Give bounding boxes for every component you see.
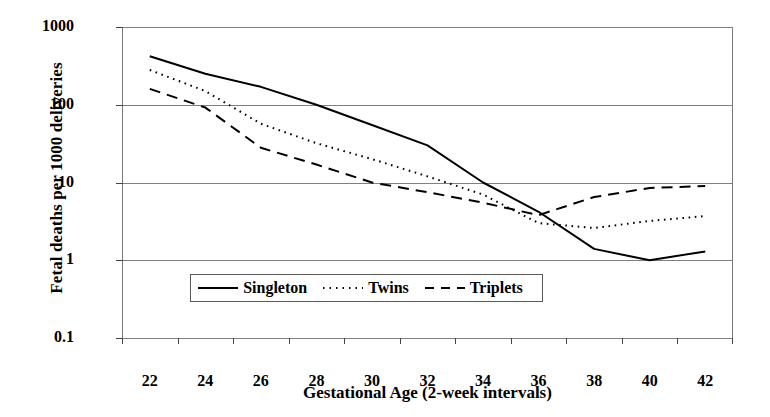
x-tick-label-26: 26: [241, 372, 281, 390]
x-tick-label-30: 30: [352, 372, 392, 390]
y-tick-label-1000: 1000: [0, 18, 74, 34]
series-line-twins: [150, 70, 705, 228]
x-tick-6: [455, 338, 456, 344]
y-tick-label-1: 1: [0, 251, 74, 267]
x-tick-10: [677, 338, 678, 344]
x-tick-label-40: 40: [630, 372, 670, 390]
x-tick-label-34: 34: [463, 372, 503, 390]
x-tick-4: [344, 338, 345, 344]
x-tick-11: [732, 338, 733, 344]
y-tick-label-100: 100: [0, 96, 74, 112]
x-tick-3: [289, 338, 290, 344]
series-line-singleton: [150, 56, 705, 260]
x-tick-label-42: 42: [685, 372, 725, 390]
x-tick-2: [233, 338, 234, 344]
y-tick-label-0.1: 0.1: [0, 329, 74, 345]
x-tick-9: [622, 338, 623, 344]
x-tick-label-28: 28: [296, 372, 336, 390]
legend-swatch-dashed: [423, 282, 467, 294]
legend-label-triplets: Triplets: [470, 279, 523, 297]
x-tick-8: [566, 338, 567, 344]
x-tick-label-24: 24: [185, 372, 225, 390]
legend-item-twins: Twins: [321, 279, 423, 297]
x-tick-0: [122, 338, 123, 344]
legend-label-singleton: Singleton: [243, 279, 307, 297]
legend-item-singleton: Singleton: [196, 279, 321, 297]
legend-swatch-dotted: [321, 282, 365, 294]
gridline-0.1: [122, 338, 733, 339]
chart-legend: Singleton Twins Triplets: [190, 274, 543, 302]
legend-swatch-solid: [196, 282, 240, 294]
x-tick-label-36: 36: [519, 372, 559, 390]
x-tick-5: [400, 338, 401, 344]
chart-figure: Fetal deaths per 1000 deliveries Gestati…: [0, 0, 770, 417]
legend-label-twins: Twins: [368, 279, 409, 297]
legend-item-triplets: Triplets: [423, 279, 537, 297]
x-tick-label-38: 38: [574, 372, 614, 390]
x-tick-1: [178, 338, 179, 344]
y-tick-label-10: 10: [0, 174, 74, 190]
series-line-triplets: [150, 89, 705, 215]
x-tick-label-32: 32: [408, 372, 448, 390]
x-tick-label-22: 22: [130, 372, 170, 390]
x-tick-7: [511, 338, 512, 344]
